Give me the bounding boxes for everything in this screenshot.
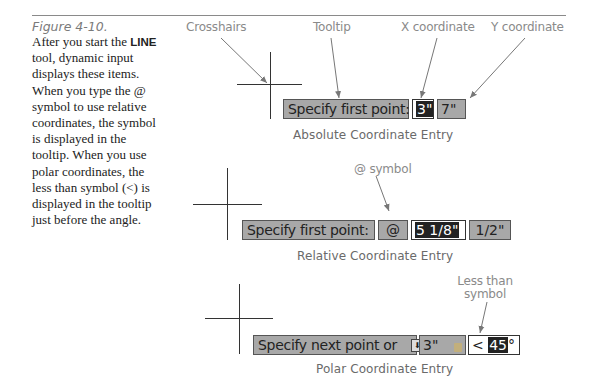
x-coordinate-input[interactable]: 3" [412,99,434,119]
distance-value: 3" [423,337,438,353]
tooltip-polar: Specify next point or⬇ [253,335,417,355]
crosshair-vertical [270,52,271,119]
distance-input[interactable]: 3" [419,335,466,355]
crosshair-horizontal [205,318,273,319]
tooltip-polar-text: Specify next point or [258,337,397,353]
x-coordinate-value: 5 1/8" [415,222,459,238]
crosshair-vertical [239,284,240,354]
absolute-entry-title: Absolute Coordinate Entry [293,128,453,142]
less-than-symbol: < [472,337,484,353]
at-symbol-field: @ [378,220,408,240]
tooltip-relative: Specify first point: [242,220,375,240]
angle-input[interactable]: < 45° [468,335,520,355]
callout-arrows [0,0,594,386]
relative-entry-title: Relative Coordinate Entry [297,249,453,263]
crosshair-horizontal [237,84,302,85]
crosshair-horizontal [193,204,262,205]
y-coordinate-input[interactable]: 1/2" [469,220,511,240]
x-coordinate-value: 3" [416,101,433,117]
degree-symbol: ° [508,337,515,353]
y-coordinate-input[interactable]: 7" [437,99,466,119]
tooltip-absolute: Specify first point: [283,99,409,119]
angle-value: 45 [488,337,508,353]
x-coordinate-input[interactable]: 5 1/8" [411,220,466,240]
polar-entry-title: Polar Coordinate Entry [316,362,453,376]
lock-icon [454,343,462,352]
